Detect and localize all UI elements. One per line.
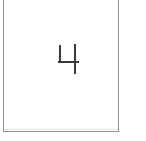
- image-canvas: [0, 0, 146, 141]
- box-bottom-shading: [4, 128, 118, 130]
- handwritten-digit-4: [56, 42, 84, 76]
